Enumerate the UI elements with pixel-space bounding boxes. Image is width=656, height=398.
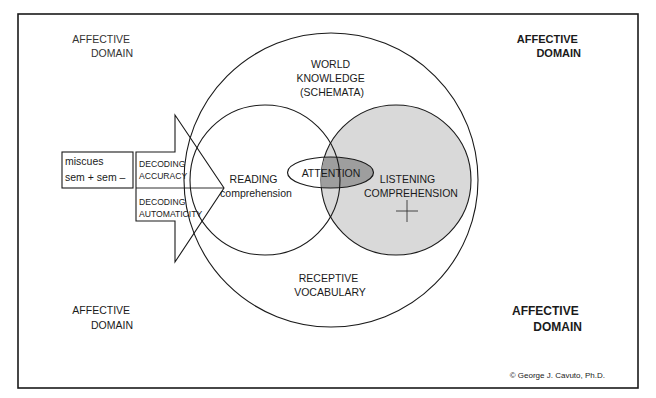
world-knowledge-label: WORLD KNOWLEDGE (SCHEMATA) (296, 58, 367, 98)
reading-model-diagram: AFFECTIVE DOMAIN AFFECTIVE DOMAIN AFFECT… (0, 0, 656, 398)
affective-domain-bottom-left: AFFECTIVE DOMAIN (72, 304, 133, 331)
affective-domain-top-right: AFFECTIVE DOMAIN (517, 33, 581, 59)
reading-comprehension-label: READING comprehension (220, 173, 292, 199)
copyright-text: © George J. Cavuto, Ph.D. (510, 371, 605, 380)
affective-domain-bottom-right: AFFECTIVE DOMAIN (512, 304, 582, 334)
decoding-arrow (136, 115, 224, 262)
receptive-vocabulary-label: RECEPTIVE VOCABULARY (294, 272, 366, 298)
attention-label: ATTENTION (302, 167, 361, 179)
decoding-accuracy-label: DECODING ACCURACY (139, 159, 188, 181)
affective-domain-top-left: AFFECTIVE DOMAIN (72, 33, 133, 59)
